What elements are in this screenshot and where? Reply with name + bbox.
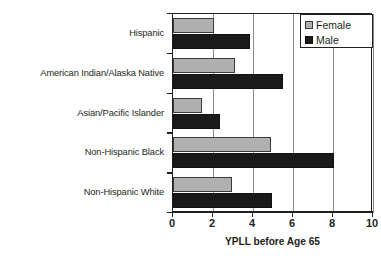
chart-legend: Female Male	[300, 14, 373, 48]
bar-male-1	[173, 74, 283, 89]
y-tick	[167, 93, 172, 94]
bar-male-3	[173, 153, 334, 168]
bar-chart: HispanicAmerican Indian/Alaska NativeAsi…	[0, 0, 381, 259]
male-swatch-icon	[305, 36, 313, 44]
x-tick-label-4: 8	[320, 217, 344, 229]
legend-item-male: Male	[305, 33, 369, 47]
gridline	[373, 14, 374, 213]
legend-item-female: Female	[305, 18, 369, 32]
bar-female-2	[173, 98, 202, 113]
legend-label-female: Female	[316, 20, 351, 31]
bar-female-0	[173, 18, 214, 33]
y-tick	[167, 172, 172, 173]
category-label-4: Non-Hispanic White	[0, 187, 164, 197]
x-axis-title: YPLL before Age 65	[172, 236, 373, 247]
category-axis-labels: HispanicAmerican Indian/Alaska NativeAsi…	[0, 13, 168, 212]
y-tick	[167, 13, 172, 14]
x-tick-label-2: 4	[240, 217, 264, 229]
category-label-2: Asian/Pacific Islander	[0, 108, 164, 118]
gridline	[253, 14, 254, 213]
x-axis-line	[172, 211, 373, 213]
y-tick	[167, 132, 172, 133]
y-tick	[167, 212, 172, 213]
bar-female-4	[173, 177, 232, 192]
category-label-0: Hispanic	[0, 28, 164, 38]
category-label-1: American Indian/Alaska Native	[0, 68, 164, 78]
bar-male-2	[173, 114, 220, 129]
x-tick-label-3: 6	[280, 217, 304, 229]
x-tick-label-0: 0	[160, 217, 184, 229]
y-tick	[167, 53, 172, 54]
bar-female-1	[173, 58, 235, 73]
category-label-3: Non-Hispanic Black	[0, 147, 164, 157]
bar-female-3	[173, 137, 271, 152]
x-tick-label-1: 2	[200, 217, 224, 229]
female-swatch-icon	[305, 21, 313, 29]
x-tick-label-5: 10	[360, 217, 381, 229]
gridline	[293, 14, 294, 213]
bar-male-0	[173, 34, 250, 49]
bar-male-4	[173, 193, 272, 208]
legend-label-male: Male	[316, 35, 339, 46]
